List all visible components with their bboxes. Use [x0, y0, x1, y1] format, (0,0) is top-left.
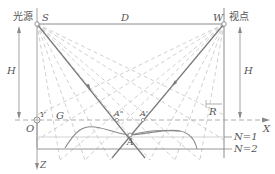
- label-A-double-prime: A": [114, 110, 123, 118]
- label-R: R: [209, 107, 217, 117]
- label-Y: Y: [40, 111, 45, 119]
- point-A-prime: [141, 118, 144, 121]
- z-axis-arrow: [35, 163, 39, 170]
- label-D: D: [121, 13, 129, 23]
- viewpoint-label: 视点: [229, 12, 249, 22]
- x-axis-arrow: [262, 118, 270, 123]
- label-H-right: H: [244, 66, 253, 76]
- label-W: W: [213, 13, 223, 23]
- point-A-double-prime: [115, 118, 118, 121]
- label-A-prime: A': [140, 110, 148, 118]
- diagram-canvas: 光源 S D W 视点 H H Y G O A" A' A R X Z N=1 …: [0, 0, 275, 174]
- label-X: X: [263, 124, 270, 134]
- label-S: S: [42, 13, 49, 23]
- curve-n2: [130, 130, 197, 149]
- label-Z: Z: [40, 161, 46, 170]
- label-G: G: [56, 111, 64, 121]
- label-A: A: [127, 138, 134, 147]
- label-O: O: [26, 124, 34, 134]
- light-source-label: 光源: [13, 12, 33, 22]
- label-N1: N=1: [234, 132, 258, 142]
- label-H-left: H: [7, 66, 16, 76]
- point-S: [35, 22, 39, 26]
- label-N2: N=2: [234, 144, 258, 154]
